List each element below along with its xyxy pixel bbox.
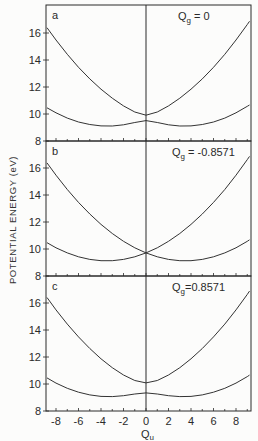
curve-lower-a xyxy=(47,105,250,126)
y-tick-label: 14 xyxy=(29,54,41,66)
curve-lower-c xyxy=(47,375,250,397)
x-tick-label: -6 xyxy=(74,415,84,427)
x-tick-label: 2 xyxy=(165,415,171,427)
y-tick-label: 16 xyxy=(29,162,41,174)
x-tick-label: 6 xyxy=(210,415,216,427)
x-tick-label: 4 xyxy=(188,415,194,427)
panel-label-c: c xyxy=(52,280,58,292)
x-axis-label: Qu xyxy=(141,428,154,441)
y-tick-label: 12 xyxy=(29,216,41,228)
y-tick-label: 8 xyxy=(35,405,41,417)
y-tick-label: 10 xyxy=(29,243,41,255)
y-tick-label: 14 xyxy=(29,324,41,336)
y-tick-label: 10 xyxy=(29,108,41,120)
y-tick-label: 12 xyxy=(29,81,41,93)
y-tick-label: 10 xyxy=(29,378,41,390)
panel-annotation-b: Qg = -0.8571 xyxy=(172,146,235,161)
panel-annotation-a: Qg = 0 xyxy=(178,10,210,25)
panel-label-b: b xyxy=(52,145,58,157)
curve-upper-b xyxy=(47,156,250,253)
curve-upper-c xyxy=(47,291,250,383)
curve-lower-b xyxy=(47,240,250,261)
panel-label-a: a xyxy=(52,9,59,21)
y-tick-label: 12 xyxy=(29,351,41,363)
y-tick-label: 8 xyxy=(35,270,41,282)
x-tick-label: -8 xyxy=(51,415,61,427)
y-tick-label: 8 xyxy=(35,135,41,147)
curve-upper-a xyxy=(47,21,250,115)
panel-annotation-c: Qg=0.8571 xyxy=(172,281,225,296)
plot-area: 810121416aQg = 0810121416bQg = -0.857181… xyxy=(0,0,258,441)
panel-frame-c xyxy=(46,276,251,411)
x-tick-label: -2 xyxy=(119,415,129,427)
y-tick-label: 16 xyxy=(29,27,41,39)
x-tick-label: 8 xyxy=(233,415,239,427)
y-axis-label: POTENTIAL ENERGY (eV) xyxy=(7,156,18,284)
figure: 810121416aQg = 0810121416bQg = -0.857181… xyxy=(0,0,258,441)
x-tick-label: -4 xyxy=(96,415,106,427)
x-tick-label: 0 xyxy=(143,415,149,427)
y-tick-label: 16 xyxy=(29,297,41,309)
y-tick-label: 14 xyxy=(29,189,41,201)
